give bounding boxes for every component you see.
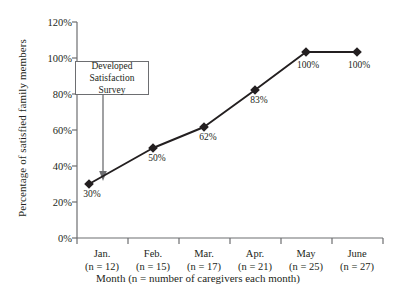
x-tick-label-group: June (n = 27) — [327, 247, 387, 273]
annotation-arrow — [99, 93, 107, 181]
x-tick-label: June — [327, 247, 387, 260]
data-label: 100% — [348, 60, 370, 70]
x-axis-title: Month (n = number of caregivers each mon… — [0, 272, 396, 284]
chart-figure: Percentage of satisfied family members 1… — [0, 0, 396, 295]
annotation-line-2: Satisfaction Survey — [76, 72, 148, 96]
x-axis-ticks — [77, 238, 383, 244]
data-label: 83% — [250, 95, 267, 105]
data-point-marker — [84, 179, 94, 189]
data-label: 100% — [297, 60, 319, 70]
data-point-marker — [352, 47, 362, 57]
data-point-marker — [148, 143, 158, 153]
data-label: 62% — [199, 132, 216, 142]
annotation-line-1: Developed — [91, 60, 132, 72]
annotation-callout-box: Developed Satisfaction Survey — [75, 61, 149, 95]
data-label: 30% — [83, 189, 100, 199]
data-label: 50% — [148, 153, 165, 163]
y-axis-ticks — [72, 22, 77, 238]
